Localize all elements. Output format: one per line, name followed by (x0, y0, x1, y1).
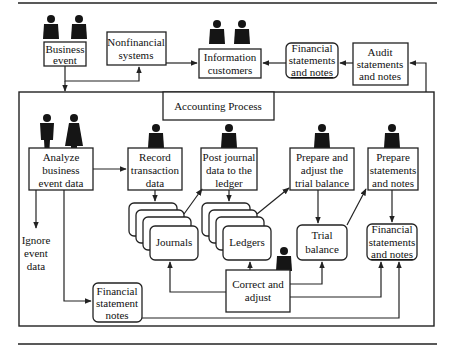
ignore-terminal: Ignore event data (22, 234, 51, 272)
svg-text:data to the: data to the (206, 164, 252, 176)
svg-text:Nonfinancial: Nonfinancial (107, 36, 164, 48)
record-step: Record transaction data (128, 124, 182, 190)
svg-text:adjust the: adjust the (301, 164, 344, 176)
audit-statements: Audit statements and notes (353, 43, 408, 85)
svg-text:balance: balance (305, 243, 339, 255)
svg-text:statements: statements (357, 58, 403, 70)
svg-text:Information: Information (204, 51, 257, 63)
svg-text:statements: statements (289, 54, 335, 66)
svg-text:and notes: and notes (371, 248, 413, 260)
fs-notes-store: Financial statement notes (93, 283, 142, 322)
svg-text:statement: statement (96, 297, 138, 309)
svg-text:Ignore: Ignore (22, 234, 51, 246)
post-step: Post journal data to the ledger (201, 124, 257, 190)
person-icon (71, 15, 87, 39)
svg-text:event: event (24, 247, 48, 259)
svg-text:data: data (27, 260, 45, 272)
trial-balance-store: Trial balance (297, 225, 347, 260)
svg-text:notes: notes (105, 309, 128, 321)
nonfinancial-systems: Nonfinancial systems (107, 32, 166, 65)
svg-text:event: event (53, 54, 77, 66)
financial-statements-store: Financial statements and notes (367, 223, 417, 260)
svg-text:business: business (42, 164, 79, 176)
svg-text:Financial: Financial (97, 285, 138, 297)
person-icon (221, 124, 237, 148)
svg-text:Financial: Financial (372, 223, 413, 235)
svg-text:Post journal: Post journal (203, 151, 256, 163)
person-icon (234, 20, 250, 44)
svg-text:transaction: transaction (131, 164, 180, 176)
svg-text:Prepare: Prepare (376, 151, 410, 163)
svg-text:Journals: Journals (156, 236, 193, 248)
svg-text:ledger: ledger (215, 177, 243, 189)
svg-text:Prepare and: Prepare and (296, 151, 349, 163)
svg-text:Analyze: Analyze (43, 151, 80, 163)
journals-store: Journals (129, 203, 198, 260)
svg-text:and notes: and notes (359, 70, 401, 82)
svg-text:event data: event data (39, 177, 84, 189)
prepare-trial-step: Prepare and adjust the trial balance (290, 124, 354, 190)
svg-text:statements: statements (369, 236, 415, 248)
svg-text:Trial: Trial (312, 229, 333, 241)
person-icon (314, 124, 330, 148)
analyze-step: Analyze business event data (29, 114, 93, 190)
person-icon (43, 15, 59, 39)
svg-text:adjust: adjust (245, 291, 271, 303)
prepare-statements-step: Prepare statements and notes (368, 124, 418, 190)
svg-text:and notes: and notes (291, 66, 333, 78)
svg-text:data: data (146, 177, 164, 189)
business-event: Business event (43, 15, 87, 66)
person-icon (384, 124, 400, 148)
financial-statements-output: Financial statements and notes (286, 42, 338, 78)
accounting-process-diagram: Accounting Process Business event Nonfin… (0, 0, 452, 346)
svg-text:and notes: and notes (372, 177, 414, 189)
svg-text:systems: systems (119, 49, 154, 61)
person-icon (209, 20, 225, 44)
information-customers: Information customers (199, 20, 261, 78)
svg-text:Financial: Financial (292, 42, 333, 54)
person-icon (148, 124, 164, 148)
svg-text:Ledgers: Ledgers (229, 236, 264, 248)
svg-text:Audit: Audit (367, 46, 392, 58)
svg-text:trial balance: trial balance (295, 177, 349, 189)
svg-text:Record: Record (139, 151, 171, 163)
svg-text:customers: customers (208, 64, 253, 76)
svg-text:statements: statements (370, 164, 416, 176)
person-icon (276, 247, 292, 271)
svg-text:Correct and: Correct and (232, 278, 284, 290)
process-title: Accounting Process (174, 100, 262, 112)
